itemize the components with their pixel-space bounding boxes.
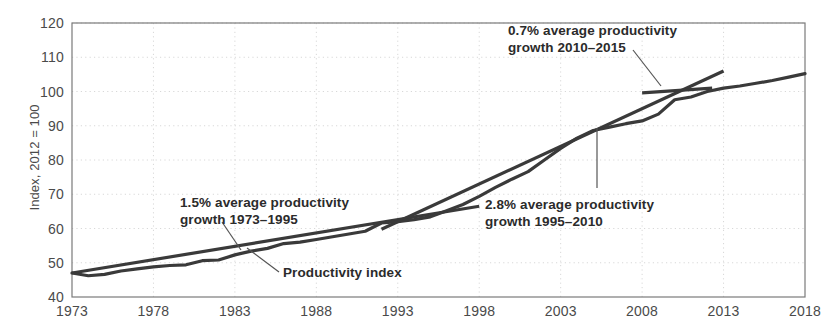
annotation-line-1: 0.7% average productivity bbox=[508, 22, 677, 39]
annotation-line-1: 1.5% average productivity bbox=[180, 194, 349, 211]
annotation-growth-2-8: 2.8% average productivity growth 1995–20… bbox=[485, 196, 654, 231]
annotation-line-2: growth 1973–1995 bbox=[180, 211, 349, 228]
productivity-chart: Index, 2012 = 100 40 50 60 70 80 90 100 … bbox=[0, 0, 831, 334]
annotation-productivity-index: Productivity index bbox=[283, 265, 402, 280]
annotation-growth-0-7: 0.7% average productivity growth 2010–20… bbox=[508, 22, 677, 57]
plot-area bbox=[0, 0, 831, 334]
annotation-growth-1-5: 1.5% average productivity growth 1973–19… bbox=[180, 194, 349, 229]
trend-lines bbox=[72, 71, 724, 273]
leader-line-index bbox=[247, 248, 279, 272]
annotation-line-1: 2.8% average productivity bbox=[485, 196, 654, 213]
annotation-line-2: growth 1995–2010 bbox=[485, 213, 654, 230]
annotation-line-2: growth 2010–2015 bbox=[508, 39, 677, 56]
productivity-index-line bbox=[72, 74, 805, 276]
